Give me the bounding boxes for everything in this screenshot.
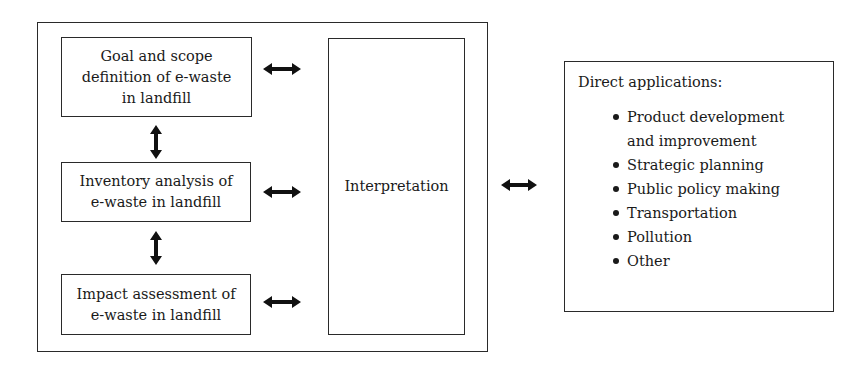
list-item: Other bbox=[611, 249, 784, 273]
applications-list: Product development and improvement Stra… bbox=[611, 105, 784, 273]
impact-assessment-label: Impact assessment of e-waste in landfill bbox=[76, 284, 235, 326]
double-arrow-icon bbox=[262, 295, 302, 309]
double-arrow-icon bbox=[262, 62, 302, 76]
goal-scope-box: Goal and scope definition of e-waste in … bbox=[61, 37, 252, 117]
direct-applications-box: Direct applications: Product development… bbox=[564, 61, 834, 312]
interpretation-label: Interpretation bbox=[344, 176, 448, 197]
list-item: Strategic planning bbox=[611, 153, 784, 177]
double-arrow-icon bbox=[500, 178, 538, 192]
list-item: Transportation bbox=[611, 201, 784, 225]
inventory-analysis-box: Inventory analysis of e-waste in landfil… bbox=[61, 162, 251, 222]
double-arrow-icon bbox=[262, 185, 302, 199]
vertical-double-arrow-icon bbox=[149, 230, 163, 266]
vertical-double-arrow-icon bbox=[149, 124, 163, 160]
goal-scope-label: Goal and scope definition of e-waste in … bbox=[82, 46, 232, 109]
list-item: Product development and improvement bbox=[611, 105, 784, 153]
direct-applications-title: Direct applications: bbox=[578, 74, 722, 90]
list-item: Pollution bbox=[611, 225, 784, 249]
interpretation-box: Interpretation bbox=[328, 38, 465, 335]
list-item: Public policy making bbox=[611, 177, 784, 201]
inventory-analysis-label: Inventory analysis of e-waste in landfil… bbox=[79, 171, 232, 213]
impact-assessment-box: Impact assessment of e-waste in landfill bbox=[61, 274, 251, 335]
